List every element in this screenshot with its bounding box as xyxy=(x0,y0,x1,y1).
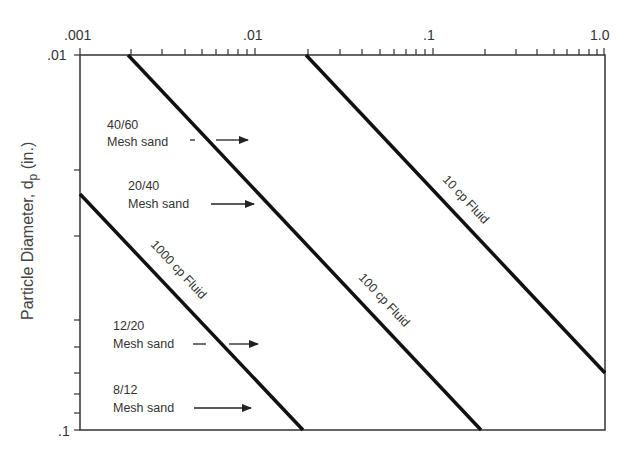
y-tick-label-01: .01 xyxy=(47,47,67,63)
annotation-40-60: 40/60 Mesh sand xyxy=(107,118,248,149)
svg-text:40/60: 40/60 xyxy=(107,118,138,132)
label-100cp-fluid: 100 cp Fluid xyxy=(356,270,413,329)
line-10cp-fluid xyxy=(306,55,605,373)
chart: .001 .01 .1 1.0 .01 .1 Particle Diameter… xyxy=(0,0,630,455)
y-axis-ticks xyxy=(74,55,80,430)
svg-text:Mesh sand: Mesh sand xyxy=(113,401,174,415)
x-tick-label-1-0: 1.0 xyxy=(590,27,610,43)
y-tick-label-1: .1 xyxy=(58,423,70,439)
x-axis-ticks xyxy=(80,48,604,55)
svg-text:Mesh sand: Mesh sand xyxy=(107,135,168,149)
x-tick-label-001: .001 xyxy=(64,27,91,43)
svg-text:Mesh sand: Mesh sand xyxy=(128,197,189,211)
annotation-12-20: 12/20 Mesh sand xyxy=(113,319,258,351)
svg-text:12/20: 12/20 xyxy=(113,319,144,333)
svg-text:8/12: 8/12 xyxy=(113,383,137,397)
annotation-8-12: 8/12 Mesh sand xyxy=(113,383,251,415)
x-tick-label-1: .1 xyxy=(423,27,435,43)
y-axis-label: Particle Diameter, dp (in.) xyxy=(19,142,40,320)
label-10cp-fluid: 10 cp Fluid xyxy=(440,172,492,226)
annotation-20-40: 20/40 Mesh sand xyxy=(128,179,254,211)
line-100cp-fluid xyxy=(128,55,481,430)
label-1000cp-fluid: 1000 cp Fluid xyxy=(148,237,210,301)
svg-text:20/40: 20/40 xyxy=(128,179,159,193)
svg-text:Mesh sand: Mesh sand xyxy=(113,337,174,351)
x-tick-label-01: .01 xyxy=(243,27,263,43)
